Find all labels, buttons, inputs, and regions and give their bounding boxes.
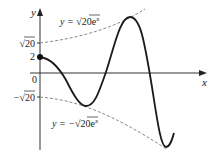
upper-envelope-label: y = √20ex [59,15,100,27]
lower-envelope-label: y = −√20ex [51,117,99,129]
x-axis-label: x [201,76,207,88]
ytick-neg-sqrt20: −√20 [14,92,35,103]
y-axis-label: y [30,6,36,18]
y-axis-arrow-icon [37,8,43,16]
start-point [37,54,43,60]
ytick-2: 2 [30,51,35,62]
ytick-sqrt20: √20 [20,38,36,49]
graph: y x 0 √20 2 −√20 y = √20ex y = −√20ex [0,0,220,157]
origin-label: 0 [32,74,37,85]
